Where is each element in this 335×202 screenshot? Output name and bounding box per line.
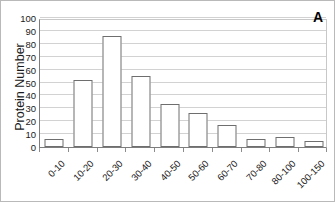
bar-slot xyxy=(299,20,328,147)
x-axis-tick-label: 40-50 xyxy=(157,158,182,183)
bar[interactable] xyxy=(160,104,179,147)
y-axis-tick-label: 30 xyxy=(14,104,36,114)
bar[interactable] xyxy=(74,80,93,147)
bar-slot xyxy=(69,20,98,147)
y-axis-tick-label: 50 xyxy=(14,79,36,89)
bar-slot xyxy=(213,20,242,147)
bar-slot xyxy=(98,20,127,147)
bar[interactable] xyxy=(246,139,265,147)
x-axis-tick-label: 70-80 xyxy=(244,158,269,183)
x-axis-tick-label: 10-20 xyxy=(71,158,96,183)
bar[interactable] xyxy=(218,125,237,147)
bar[interactable] xyxy=(45,139,64,147)
y-axis-tick-label: 40 xyxy=(14,91,36,101)
y-axis-tick-label: 20 xyxy=(14,117,36,127)
x-axis-tick-label: 100-150 xyxy=(294,158,326,190)
bar[interactable] xyxy=(131,76,150,147)
y-axis-tick-label: 100 xyxy=(14,14,36,24)
x-axis-tick-label: 20-30 xyxy=(100,158,125,183)
x-axis-tick-labels: 0-1010-2020-3030-4040-5050-6060-7070-808… xyxy=(39,152,327,192)
x-axis-tick-label: 60-70 xyxy=(215,158,240,183)
bar[interactable] xyxy=(275,137,294,147)
bar-slot xyxy=(126,20,155,147)
x-axis-tick-label: 30-40 xyxy=(129,158,154,183)
bar[interactable] xyxy=(304,141,323,147)
bar-slot xyxy=(184,20,213,147)
bar-slot xyxy=(270,20,299,147)
bar-series xyxy=(40,20,326,147)
y-axis-tick-label: 80 xyxy=(14,40,36,50)
plot-area xyxy=(39,19,327,148)
bar-slot xyxy=(242,20,271,147)
y-axis-tick-labels: 0102030405060708090100 xyxy=(14,14,36,148)
bar[interactable] xyxy=(189,113,208,147)
y-axis-tick-label: 60 xyxy=(14,66,36,76)
bar[interactable] xyxy=(102,36,121,147)
gridline xyxy=(40,17,326,18)
x-axis-tick-label: 50-60 xyxy=(186,158,211,183)
y-axis-tick-label: 10 xyxy=(14,130,36,140)
y-axis-tick-label: 0 xyxy=(14,143,36,153)
panel-label: A xyxy=(313,9,323,25)
y-axis-tick-label: 90 xyxy=(14,27,36,37)
y-axis-tick-label: 70 xyxy=(14,53,36,63)
bar-slot xyxy=(155,20,184,147)
bar-slot xyxy=(40,20,69,147)
chart-figure: Protein Number 0102030405060708090100 0-… xyxy=(0,0,335,202)
x-axis-tick-label: 0-10 xyxy=(46,158,67,179)
